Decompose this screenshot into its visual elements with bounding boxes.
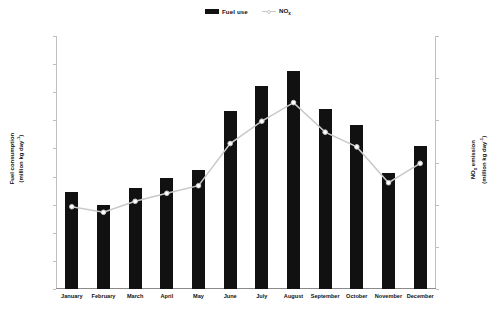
- nox-data-point: [355, 145, 360, 150]
- right-tick-mark: [436, 205, 439, 206]
- nox-data-point: [386, 180, 391, 185]
- nox-data-point: [165, 191, 170, 196]
- category-label: July: [246, 293, 278, 299]
- chart-legend: Fuel use NOx: [0, 7, 496, 16]
- category-label: August: [278, 293, 310, 299]
- category-label: May: [183, 293, 215, 299]
- category-label: June: [214, 293, 246, 299]
- right-axis-title: NOx emission (million kg day-1): [469, 105, 488, 215]
- nox-data-point: [418, 161, 423, 166]
- chart-root: Fuel use NOx Fuel consumption (million k…: [0, 0, 496, 326]
- line-series-nox: [56, 36, 436, 289]
- right-tick-mark: [436, 36, 439, 37]
- nox-data-point: [133, 199, 138, 204]
- left-tick-mark: [53, 289, 56, 290]
- nox-data-point: [196, 183, 201, 188]
- legend-item-fuel-use: Fuel use: [205, 8, 248, 15]
- legend-label-nox: NOx: [279, 7, 291, 16]
- bar-swatch-icon: [205, 9, 219, 14]
- nox-line-path: [72, 103, 420, 213]
- category-label: November: [373, 293, 405, 299]
- right-tick-mark: [436, 78, 439, 79]
- category-label: October: [341, 293, 373, 299]
- category-label: September: [309, 293, 341, 299]
- nox-data-point: [228, 141, 233, 146]
- nox-data-point: [260, 119, 265, 124]
- category-label: December: [404, 293, 436, 299]
- right-tick-mark: [436, 163, 439, 164]
- category-label: March: [119, 293, 151, 299]
- category-label: January: [56, 293, 88, 299]
- right-tick-mark: [436, 120, 439, 121]
- line-marker-icon: [262, 9, 276, 14]
- nox-data-point: [323, 130, 328, 135]
- right-tick-mark: [436, 247, 439, 248]
- left-axis-title: Fuel consumption (million kg day-1): [8, 104, 25, 214]
- category-label: April: [151, 293, 183, 299]
- nox-data-point: [70, 204, 75, 209]
- legend-item-nox: NOx: [262, 7, 291, 16]
- right-tick-mark: [436, 289, 439, 290]
- nox-data-point: [101, 210, 106, 215]
- category-label: February: [88, 293, 120, 299]
- legend-label-fuel-use: Fuel use: [222, 8, 248, 15]
- plot-area: 325330335340345350355360365370 4.34.44.5…: [56, 36, 436, 289]
- nox-data-point: [291, 100, 296, 105]
